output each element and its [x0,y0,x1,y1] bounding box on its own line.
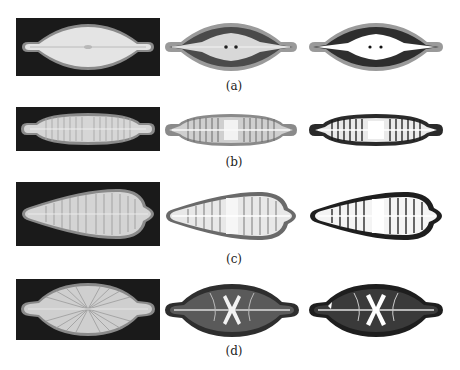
caption-d: (d) [0,344,460,358]
diatom-b-original [16,107,160,151]
caption-b: (b) [0,155,460,169]
diatom-a-seg-gray [162,20,300,74]
diatom-c-seg-gray [162,188,300,244]
diatom-a-original [16,18,160,76]
diatom-d-original [16,279,160,340]
caption-c: (c) [0,252,460,266]
diatom-d-seg-gray [162,281,302,340]
diatom-a-seg-bw [306,20,446,74]
diatom-b-seg-gray [162,110,300,150]
diatom-c-seg-bw [306,188,446,244]
diatom-b-seg-bw [306,110,446,150]
diatom-c-original [16,182,160,246]
diatom-d-seg-bw [306,281,446,340]
caption-a: (a) [0,79,460,93]
